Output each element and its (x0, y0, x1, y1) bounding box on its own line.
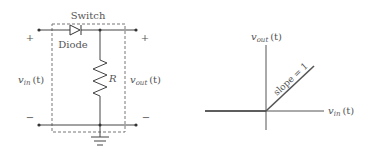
resistor-label: R (108, 73, 117, 84)
diode-icon (70, 25, 81, 35)
terminal-dot-top-right (134, 28, 137, 31)
minus-left-label: − (26, 112, 34, 123)
junction-dot-top (99, 29, 102, 32)
y-axis-arg: (t) (270, 31, 282, 42)
x-axis-label: vin(t) (328, 105, 354, 118)
junction-dot-bottom (99, 124, 102, 127)
minus-right-label: − (142, 112, 150, 123)
y-axis-sub: out (257, 36, 269, 44)
vin-arg: (t) (32, 74, 44, 85)
x-axis-sub: in (334, 110, 341, 118)
plus-left-label: + (26, 32, 34, 43)
vout-circuit-label: vout(t) (130, 74, 161, 87)
plus-right-label: + (141, 32, 149, 43)
vin-sub: in (24, 79, 31, 87)
diode-label: Diode (58, 39, 88, 50)
transfer-graph (205, 45, 324, 130)
vout-arg: (t) (149, 74, 161, 85)
diagram-canvas: Switch Diode R + + − − vin(t) vout(t) vo… (0, 0, 371, 152)
terminal-dot-bottom-left (37, 123, 40, 126)
x-axis-arg: (t) (342, 105, 354, 116)
resistor-icon (93, 60, 107, 96)
vout-sub: out (136, 79, 148, 87)
switch-label: Switch (71, 10, 106, 21)
y-axis-label: vout(t) (251, 31, 282, 44)
slope-label: slope = 1 (272, 61, 310, 98)
vin-circuit-label: vin(t) (18, 74, 44, 87)
terminal-dot-bottom-right (134, 123, 137, 126)
terminal-dot-top-left (37, 28, 40, 31)
